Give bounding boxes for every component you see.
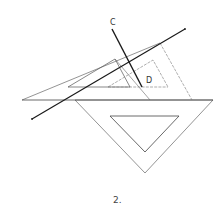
upper-set-square-right-edge: [160, 43, 192, 100]
long-line-end-right: [184, 28, 186, 30]
long-line-end-left: [31, 118, 33, 120]
upper-set-square-outer: [22, 43, 160, 100]
upper-set-square-inner: [68, 59, 130, 87]
lower-set-square-outer: [75, 100, 213, 173]
label-d: D: [146, 76, 152, 85]
lower-set-square-inner: [110, 116, 179, 152]
long-line: [32, 29, 185, 119]
dashed-inner-triangle: [108, 60, 168, 87]
figure-caption: 2.: [113, 195, 122, 205]
label-c: C: [110, 18, 116, 27]
set-square-diagram: C D 2.: [0, 0, 223, 207]
line-c: [112, 29, 142, 87]
